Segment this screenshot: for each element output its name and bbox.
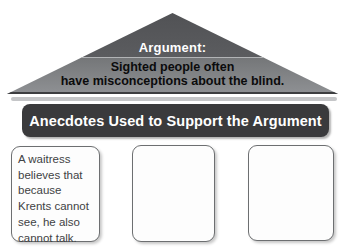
anecdotes-banner-label: Anecdotes Used to Support the Argument xyxy=(29,113,321,129)
triangle-shape: Argument: Sighted people often have misc… xyxy=(7,13,338,94)
anecdote-box-1: A waitress believes that because Krents … xyxy=(11,146,100,242)
argument-heading: Argument: xyxy=(7,40,338,55)
graphic-organizer: Argument: Sighted people often have misc… xyxy=(0,0,348,249)
anecdotes-banner: Anecdotes Used to Support the Argument xyxy=(22,104,329,137)
argument-statement: Sighted people often have misconceptions… xyxy=(7,60,338,88)
anecdote-text-2 xyxy=(133,146,214,151)
triangle-divider-line xyxy=(7,57,338,58)
triangle-base-edge xyxy=(7,92,338,95)
anecdote-box-2 xyxy=(132,145,215,242)
anecdote-text-3 xyxy=(249,146,333,151)
argument-pyramid: Argument: Sighted people often have misc… xyxy=(7,13,338,94)
anecdote-box-3 xyxy=(248,145,334,241)
anecdote-text-1: A waitress believes that because Krents … xyxy=(12,147,99,246)
triangle-base-shadow xyxy=(11,97,337,101)
